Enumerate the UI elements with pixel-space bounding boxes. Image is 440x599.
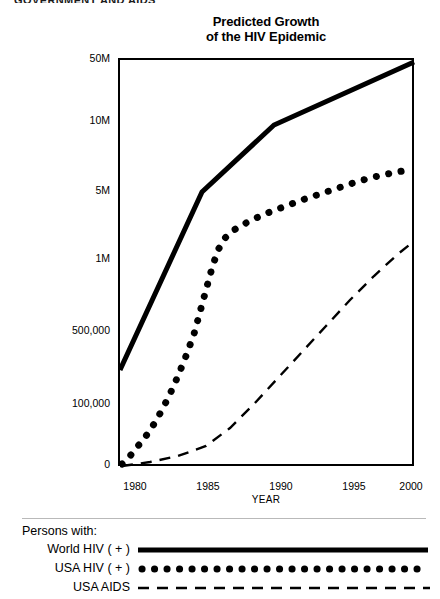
plot-area — [118, 58, 414, 466]
legend-item-world-hiv: World HIV ( + ) — [22, 541, 432, 558]
running-header: GOVERNMENT AND AIDS — [14, 0, 156, 3]
legend-label-world-hiv: World HIV ( + ) — [22, 541, 130, 557]
legend-swatch-dotted-icon — [136, 560, 432, 576]
x-tick-label-1985: 1985 — [178, 481, 238, 492]
y-tick-label-10m: 10M — [10, 115, 110, 126]
legend-swatch-solid-icon — [136, 541, 432, 557]
x-tick-label-1995: 1995 — [324, 481, 384, 492]
y-tick-label-50m: 50M — [10, 53, 110, 64]
series-line-usa-hiv — [122, 170, 408, 464]
y-tick-label-1m: 1M — [10, 253, 110, 264]
x-tick-label-1990: 1990 — [251, 481, 311, 492]
legend-label-usa-hiv: USA HIV ( + ) — [22, 560, 130, 576]
y-tick-label-100000: 100,000 — [10, 398, 110, 409]
legend-swatch-dashed-icon — [136, 579, 432, 595]
x-axis-title: YEAR — [118, 494, 414, 505]
chart-title: Predicted Growth of the HIV Epidemic — [118, 14, 414, 44]
chart-title-line-2: of the HIV Epidemic — [118, 29, 414, 44]
legend-label-usa-aids: USA AIDS — [22, 579, 130, 595]
legend-item-usa-hiv: USA HIV ( + ) — [22, 560, 432, 577]
y-tick-label-0: 0 — [10, 459, 110, 470]
x-tick-label-1980: 1980 — [105, 481, 165, 492]
legend-item-usa-aids: USA AIDS — [22, 579, 432, 596]
y-tick-label-500000: 500,000 — [10, 325, 110, 336]
y-tick-label-5m: 5M — [10, 185, 110, 196]
plot-series-svg — [120, 60, 416, 468]
x-tick-label-2000: 2000 — [381, 481, 440, 492]
chart-title-line-1: Predicted Growth — [118, 14, 414, 29]
legend-divider — [22, 518, 426, 519]
chart-page: GOVERNMENT AND AIDS Predicted Growth of … — [0, 0, 440, 599]
series-line-world-hiv — [120, 62, 414, 370]
legend-title: Persons with: — [22, 524, 97, 538]
